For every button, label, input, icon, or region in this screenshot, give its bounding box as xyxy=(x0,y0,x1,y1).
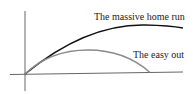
easy-out-label: The easy out xyxy=(133,49,184,60)
home-run-label: The massive home run xyxy=(94,11,185,22)
trajectory-diagram: The massive home run The easy out xyxy=(0,0,193,94)
easy-out-curve xyxy=(25,50,150,74)
x-axis xyxy=(10,72,183,75)
